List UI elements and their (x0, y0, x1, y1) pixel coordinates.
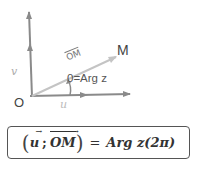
axes-svg (0, 0, 198, 112)
formula-equals: = (89, 135, 100, 150)
origin-label: O (14, 95, 24, 110)
om-vector-arrow-icon (108, 56, 117, 63)
vector-v-label: v (11, 65, 17, 78)
formula-left-paren: ( (22, 133, 30, 153)
u-vector-arrow-icon (80, 92, 88, 98)
vector-u-label: u (60, 98, 67, 111)
formula-separator: ; (42, 135, 47, 150)
formula-u-vector: u → (30, 135, 39, 150)
complex-plane-diagram: M O 0=Arg z v u OM (0, 0, 198, 112)
formula-om-vector: → OM (50, 135, 76, 150)
formula-rhs: Arg z(2π) (106, 135, 175, 150)
formula-box: ( u → ; → OM ) = Arg z(2π) (7, 126, 190, 159)
angle-label: 0=Arg z (67, 72, 107, 84)
vector-arrow-icon: → (72, 127, 79, 136)
imaginary-axis-arrow-icon (26, 11, 32, 19)
point-m-label: M (117, 42, 129, 58)
v-vector-arrow-icon (27, 43, 33, 51)
real-axis-arrow-icon (123, 91, 131, 97)
vector-arrow-icon: → (35, 127, 42, 136)
formula-u-text: u (30, 135, 39, 150)
imaginary-axis (29, 12, 32, 97)
formula-om-text: OM (50, 135, 76, 150)
